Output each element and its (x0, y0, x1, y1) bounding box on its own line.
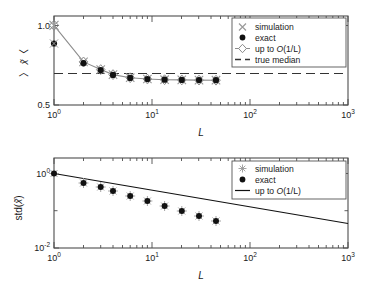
bottom-legend-order-pre: up to (255, 186, 277, 196)
top-xtick-10e1: 101 (145, 108, 159, 120)
bottom-point-L257 (194, 211, 204, 221)
top-legend-label-order: up to O(1/L) (255, 44, 301, 54)
top-point-L3 (79, 57, 88, 67)
figure-container: 〈 x̃ 〉 1.0 0.5 (0, 0, 368, 291)
top-legend-order-post: (1/L) (283, 44, 301, 54)
bottom-xtick-10e1: 101 (145, 251, 159, 263)
bottom-xtick-10e3: 103 (341, 251, 355, 263)
bottom-point-L5 (96, 182, 106, 192)
top-ylabel-var: x̃ (19, 59, 30, 66)
top-panel: 〈 x̃ 〉 1.0 0.5 (0, 0, 368, 145)
bottom-xtick-labels: 100 101 102 103 (47, 251, 355, 263)
top-point-L5 (96, 65, 105, 75)
bottom-ytick-10e0: 100 (36, 167, 50, 179)
top-point-L513 (212, 75, 221, 85)
top-point-L9 (109, 70, 118, 80)
top-legend-label-simulation: simulation (255, 22, 294, 32)
top-point-L17 (126, 73, 135, 83)
bottom-legend: simulation exact up to O(1/L) (232, 161, 346, 199)
bottom-point-L3 (79, 178, 89, 188)
top-ytick-1.0: 1.0 (37, 21, 50, 31)
bottom-legend-label-exact: exact (255, 175, 276, 185)
top-point-L257 (195, 75, 204, 85)
bottom-ylabel: std(x̃) (13, 195, 24, 220)
top-legend-order-pre: up to (255, 44, 277, 54)
top-markers (50, 20, 221, 85)
bottom-ylabel-post: ) (13, 195, 24, 198)
top-legend-label-exact: exact (255, 33, 276, 43)
bottom-point-L1 (49, 169, 59, 179)
bottom-point-L129 (177, 206, 187, 216)
top-point-L129 (178, 75, 187, 85)
top-xlabel: L (198, 127, 204, 138)
top-point-L33 (143, 74, 152, 84)
bottom-xtick-10e2: 102 (243, 251, 257, 263)
top-legend-label-true-median: true median (255, 55, 301, 65)
top-ytick-0.5: 0.5 (37, 100, 50, 110)
top-xtick-10e0: 100 (47, 108, 61, 120)
bottom-legend-order-post: (1/L) (283, 186, 301, 196)
bottom-legend-label-simulation: simulation (255, 164, 294, 174)
top-ylabel: 〈 x̃ 〉 (19, 49, 30, 77)
bottom-ylabel-pre: std( (13, 203, 24, 220)
bottom-legend-label-order: up to O(1/L) (255, 186, 301, 196)
top-xtick-10e3: 103 (341, 108, 355, 120)
legend-marker-dot-icon (240, 35, 246, 41)
top-panel-svg: 〈 x̃ 〉 1.0 0.5 (0, 0, 368, 145)
bottom-panel-svg: std(x̃) 100 10-2 (0, 146, 368, 291)
bottom-xlabel: L (198, 270, 204, 281)
bottom-xtick-10e0: 100 (47, 251, 61, 263)
top-legend: simulation exact up to O(1/L) true media… (232, 18, 346, 67)
bottom-panel: std(x̃) 100 10-2 (0, 146, 368, 291)
bottom-point-L9 (108, 186, 118, 196)
top-ylabel-angle-open: 〈 (19, 49, 30, 59)
bottom-point-L513 (211, 216, 221, 226)
top-xtick-10e2: 102 (243, 108, 257, 120)
top-point-L65 (160, 75, 169, 85)
bottom-point-L65 (160, 201, 170, 211)
top-ylabel-angle-close: 〉 (19, 67, 30, 77)
bottom-ytick-10e-2: 10-2 (34, 241, 50, 253)
legend-marker-dot-icon-bottom (240, 177, 246, 183)
top-order-1l-curve (54, 25, 216, 80)
top-xtick-labels: 100 101 102 103 (47, 108, 355, 120)
bottom-point-L17 (125, 191, 135, 201)
bottom-point-L33 (142, 196, 152, 206)
